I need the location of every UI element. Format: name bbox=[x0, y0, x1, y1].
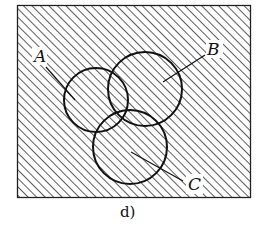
label-c: C bbox=[188, 174, 201, 194]
venn-diagram: A B C d) bbox=[0, 0, 257, 228]
universal-set-frame bbox=[18, 6, 251, 198]
label-b: B bbox=[206, 39, 220, 59]
label-a: A bbox=[32, 46, 46, 66]
figure-caption: d) bbox=[120, 203, 135, 221]
